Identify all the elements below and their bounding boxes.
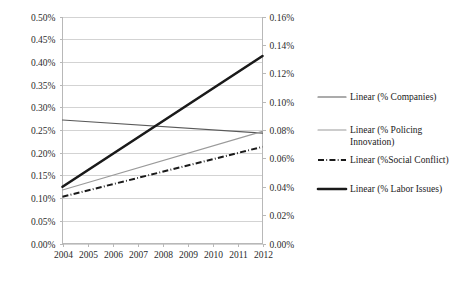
- left-axis-tick-label: 0.40%: [31, 58, 56, 68]
- left-axis-tick-label: 0.30%: [31, 103, 56, 113]
- right-axis-tick-labels: 0.16%0.14%0.12%0.10%0.08%0.06%0.04%0.02%…: [270, 13, 295, 250]
- x-axis-tick-label: 2006: [104, 250, 123, 260]
- legend-label: Linear (% Policing: [350, 125, 423, 136]
- left-axis-tick-label: 0.05%: [31, 217, 56, 227]
- right-axis-tick-label: 0.08%: [270, 126, 295, 136]
- x-axis-tick-label: 2004: [54, 250, 73, 260]
- legend-label: Linear (% Companies): [350, 92, 437, 103]
- right-axis-tick-label: 0.14%: [270, 41, 295, 51]
- line-chart: 0.50%0.45%0.40%0.35%0.30%0.25%0.20%0.15%…: [0, 0, 457, 281]
- left-axis-tick-label: 0.10%: [31, 194, 56, 204]
- x-axis-tick-label: 2012: [254, 250, 273, 260]
- left-axis-tick-label: 0.00%: [31, 240, 56, 250]
- chart-container: 0.50%0.45%0.40%0.35%0.30%0.25%0.20%0.15%…: [0, 0, 457, 281]
- right-axis-tick-label: 0.16%: [270, 13, 295, 23]
- right-axis-tick-label: 0.02%: [270, 211, 295, 221]
- legend-label: Linear (% Labor Issues): [350, 184, 442, 195]
- x-axis-tick-label: 2005: [79, 250, 98, 260]
- x-axis-tick-label: 2011: [229, 250, 248, 260]
- left-axis-tick-label: 0.20%: [31, 149, 56, 159]
- x-axis-tick-label: 2010: [204, 250, 223, 260]
- left-axis-tick-label: 0.25%: [31, 126, 56, 136]
- left-axis-tick-label: 0.35%: [31, 81, 56, 91]
- left-axis-tick-label: 0.45%: [31, 35, 56, 45]
- x-axis-tick-label: 2009: [179, 250, 198, 260]
- x-axis-tick-labels: 200420052006200720082009201020112012: [54, 250, 273, 260]
- legend-label-continued: Innovation): [350, 137, 394, 148]
- right-axis-tick-label: 0.10%: [270, 98, 295, 108]
- right-axis-tick-label: 0.06%: [270, 154, 295, 164]
- left-axis-tick-label: 0.15%: [31, 171, 56, 181]
- legend-label: Linear (%Social Conflict): [350, 155, 449, 166]
- left-axis-tick-label: 0.50%: [31, 13, 56, 23]
- right-axis-tick-label: 0.12%: [270, 69, 295, 79]
- right-axis-tick-label: 0.04%: [270, 183, 295, 193]
- x-axis-tick-label: 2007: [129, 250, 148, 260]
- x-axis-tick-label: 2008: [154, 250, 173, 260]
- right-axis-tick-label: 0.00%: [270, 240, 295, 250]
